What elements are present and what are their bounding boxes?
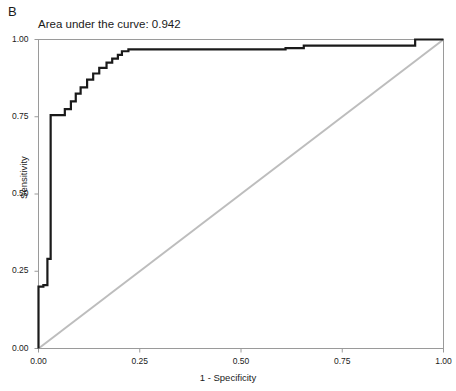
y-tick-label: 0.75 [0,111,29,121]
y-tick-label: 0.25 [0,265,29,275]
y-axis-title: Sensitivity [18,133,29,223]
y-tick-label: 0.00 [0,343,29,353]
x-axis-title: 1 - Specificity [0,372,456,383]
x-tick-label: 0.75 [322,356,362,366]
x-tick-label: 0.00 [19,356,59,366]
x-tick-label: 1.00 [424,356,456,366]
y-tick-label: 0.50 [0,188,29,198]
roc-plot-area [0,0,456,391]
y-tick-label: 1.00 [0,34,29,44]
reference-diagonal-line [39,40,444,349]
roc-chart-figure: B Area under the curve: 0.942 Sensitivit… [0,0,456,391]
x-tick-label: 0.50 [221,356,261,366]
x-tick-label: 0.25 [120,356,160,366]
